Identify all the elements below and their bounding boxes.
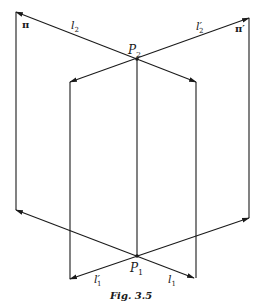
point-p1-dot <box>135 254 139 258</box>
diagram-canvas: π π′ P2 P1 l2 l′2 l′1 l1 Fig. 3.5 <box>0 0 260 305</box>
line-l1-label: l1 <box>168 273 176 288</box>
line-l2-prime <box>70 18 249 82</box>
figure-caption: Fig. 3.5 <box>109 290 152 301</box>
line-l1-prime-label: l′1 <box>94 273 101 288</box>
plane-pi-prime-label: π′ <box>235 23 245 34</box>
line-l2-prime-label: l′2 <box>196 20 203 35</box>
plane-pi-label: π <box>22 19 29 30</box>
line-l1 <box>16 210 194 278</box>
line-l1-prime <box>70 218 249 279</box>
point-p1-label: P1 <box>129 261 143 277</box>
line-l2-label: l2 <box>71 19 79 34</box>
point-p2-label: P2 <box>127 43 141 59</box>
